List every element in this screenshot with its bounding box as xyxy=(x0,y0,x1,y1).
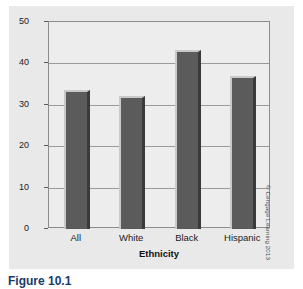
y-axis-tick-label: 20 xyxy=(3,140,29,150)
x-axis-tick-label: All xyxy=(70,232,81,243)
x-axis-tick-label: White xyxy=(119,232,143,243)
bar xyxy=(230,76,256,229)
y-axis-tick-mark xyxy=(44,228,48,229)
y-axis-label-container: Percentage with BMI >30 xyxy=(27,21,45,228)
bar xyxy=(119,96,145,229)
bar xyxy=(175,50,201,229)
y-axis-tick-label: 0 xyxy=(3,223,29,233)
y-axis-tick-label: 30 xyxy=(3,99,29,109)
y-axis-tick-label: 10 xyxy=(3,182,29,192)
y-axis-tick-label: 50 xyxy=(3,16,29,26)
figure-container: Percentage with BMI >30 01020304050 AllW… xyxy=(0,0,303,289)
x-axis-tick-label: Hispanic xyxy=(224,232,260,243)
bar xyxy=(64,90,90,229)
gridline xyxy=(49,63,269,64)
plot-area xyxy=(48,21,270,228)
x-axis-tick-label: Black xyxy=(175,232,198,243)
x-axis-label: Ethnicity xyxy=(48,248,270,259)
y-axis-tick-label: 40 xyxy=(3,57,29,67)
copyright-notice: © Cengage Learning 2013 xyxy=(265,185,272,265)
figure-caption: Figure 10.1 xyxy=(8,274,71,288)
